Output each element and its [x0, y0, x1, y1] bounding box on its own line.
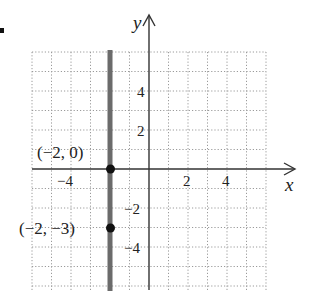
- tick-y-2: 2: [137, 123, 145, 139]
- tick-x-4: 4: [222, 173, 230, 189]
- tick-x-2: 2: [183, 173, 191, 189]
- x-axis-label: x: [284, 174, 294, 195]
- y-axis: [143, 15, 155, 290]
- tick-y-neg2: −2: [124, 201, 140, 217]
- point-label-neg2-neg3: (−2, −3): [19, 219, 75, 238]
- point-neg2-neg3: [106, 224, 115, 233]
- point-neg2-0: [106, 165, 115, 174]
- tick-y-neg4: −4: [124, 240, 140, 256]
- tick-y-4: 4: [137, 84, 145, 100]
- y-axis-label: y: [131, 12, 142, 33]
- list-bullet: [0, 28, 4, 33]
- tick-x-neg4: −4: [57, 173, 73, 189]
- coordinate-plane: y x −4 2 4 4 2 −2 −4 (−2, 0) (−2, −3): [0, 0, 318, 294]
- point-label-neg2-0: (−2, 0): [37, 143, 83, 162]
